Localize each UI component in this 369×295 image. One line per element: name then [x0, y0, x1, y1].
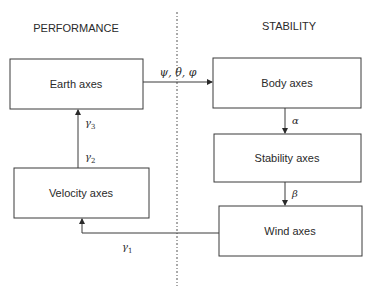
wind-axes-box: Wind axes	[219, 206, 362, 256]
stability-axes-box: Stability axes	[214, 134, 361, 182]
stability-axes-label: Stability axes	[255, 152, 320, 164]
earth-axes-label: Earth axes	[50, 78, 103, 90]
velocity-axes-box: Velocity axes	[14, 168, 149, 218]
wind-axes-label: Wind axes	[264, 225, 316, 237]
alpha-label: α	[292, 115, 299, 126]
velocity-axes-label: Velocity axes	[49, 187, 114, 199]
body-axes-box: Body axes	[213, 58, 361, 108]
gamma3-label: γ3	[85, 117, 95, 131]
gamma2-label: γ2	[85, 151, 95, 165]
body-axes-label: Body axes	[261, 77, 313, 89]
arrow-wind-to-velocity	[82, 219, 219, 233]
beta-label: β	[291, 188, 298, 199]
euler-angles-label: ψ, θ, φ	[160, 66, 197, 79]
section-heading-performance: PERFORMANCE	[33, 22, 119, 34]
gamma1-label: γ1	[122, 241, 132, 255]
axes-transformation-diagram: PERFORMANCE STABILITY Earth axes Velocit…	[0, 0, 369, 295]
earth-axes-box: Earth axes	[10, 59, 143, 109]
section-heading-stability: STABILITY	[262, 20, 317, 32]
